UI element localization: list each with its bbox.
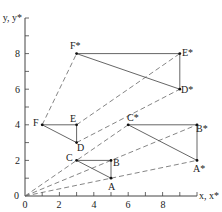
- label-e-star: E*: [182, 47, 193, 58]
- x-axis-label: x, x*: [199, 190, 219, 201]
- label-a-star: A*: [193, 163, 205, 174]
- x-tick-label: 8: [161, 199, 166, 210]
- point-f-star: [75, 52, 78, 55]
- y-tick-labels: 0 2 4 6 8: [14, 48, 20, 201]
- triangle-d-star-e-star-f-star: [77, 54, 180, 90]
- y-tick-label: 2: [15, 155, 20, 166]
- y-ticks: [25, 36, 29, 178]
- point-c-star: [127, 123, 130, 126]
- y-tick-label: 6: [15, 84, 20, 95]
- x-tick-label: 2: [57, 199, 62, 210]
- label-b-star: B*: [196, 123, 208, 134]
- origin-label: 0: [14, 190, 19, 201]
- label-f: F: [33, 117, 39, 128]
- triangle-abc: [77, 160, 111, 178]
- x-tick-label: 0: [23, 199, 28, 210]
- x-tick-labels: 0 2 4 6 8: [23, 199, 166, 210]
- x-tick-label: 4: [92, 199, 97, 210]
- point-b: [110, 159, 113, 162]
- y-axis-label: y, y*: [3, 12, 22, 23]
- label-d: D: [77, 142, 84, 153]
- point-c: [75, 159, 78, 162]
- label-b: B: [113, 157, 120, 168]
- y-tick-label: 4: [15, 119, 20, 130]
- x-ticks: [42, 192, 180, 196]
- point-e-star: [178, 52, 181, 55]
- point-a-star: [196, 159, 199, 162]
- label-c: C: [66, 152, 73, 163]
- label-e: E: [70, 113, 76, 124]
- point-a: [110, 177, 113, 180]
- y-tick-label: 8: [15, 48, 20, 59]
- triangle-def: [42, 125, 76, 143]
- x-tick-label: 6: [126, 199, 131, 210]
- label-a: A: [108, 181, 116, 192]
- label-d-star: D*: [181, 84, 193, 95]
- label-f-star: F*: [70, 40, 81, 51]
- point-labels: A B C D E F A* B* C* D* E* F*: [33, 40, 208, 192]
- point-f: [41, 123, 44, 126]
- triangle-a-star-b-star-c-star: [128, 125, 197, 161]
- label-c-star: C*: [127, 112, 139, 123]
- transformation-diagram: 0 2 4 6 8 0 2 4 6 8 x, x* y, y*: [0, 0, 222, 212]
